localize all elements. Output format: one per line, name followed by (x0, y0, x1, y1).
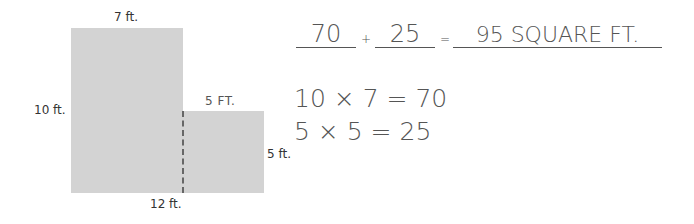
divider-dashed-line (182, 111, 184, 193)
label-left-height: 10 ft. (34, 103, 66, 117)
label-right-height: 5 ft. (267, 147, 291, 161)
label-top-width: 7 ft. (114, 10, 138, 24)
equation-term1: 70 (296, 22, 356, 48)
label-step-width: 5 FT. (205, 94, 235, 108)
large-rectangle (71, 28, 183, 193)
equation-result: 95 SQUARE FT. (453, 22, 662, 48)
label-bottom-width: 12 ft. (150, 197, 182, 211)
equation-term2: 25 (375, 22, 435, 48)
work-line-1: 10 × 7 = 70 (294, 84, 447, 113)
work-line-2: 5 × 5 = 25 (294, 117, 431, 146)
equation-equals: = (440, 32, 450, 46)
equation-plus: + (361, 32, 371, 46)
small-rectangle (183, 111, 264, 193)
